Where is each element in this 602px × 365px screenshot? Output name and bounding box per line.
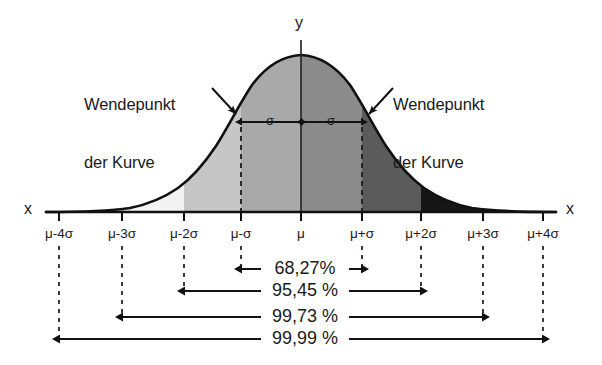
normal-distribution-figure: Wendepunkt der Kurve Wendepunkt der Kurv… (0, 0, 602, 365)
interval-label-99-99: 99,99 % (261, 328, 349, 349)
inflection-label-left-line1: Wendepunkt (84, 95, 175, 114)
inflection-label-left-line2: der Kurve (84, 153, 175, 172)
interval-label-68: 68,27% (261, 258, 349, 279)
inflection-pointer-right-icon (369, 88, 393, 114)
inflection-label-right-line1: Wendepunkt (393, 95, 484, 114)
sigma-label-left: σ (266, 113, 274, 128)
x-tick-label-plus4sigma: μ+4σ (503, 226, 583, 242)
x-axis-ticks (59, 212, 543, 221)
interval-label-99-73: 99,73 % (261, 306, 349, 327)
x-axis-label-left: x (24, 200, 32, 219)
interval-label-95: 95,45 % (261, 280, 349, 301)
y-axis-label: y (295, 14, 303, 33)
x-axis-label-right: x (566, 200, 574, 219)
inflection-pointer-left-icon (212, 88, 236, 114)
band-minus2-to-minus1 (184, 40, 241, 215)
inflection-label-right: Wendepunkt der Kurve (393, 56, 484, 212)
inflection-label-right-line2: der Kurve (393, 153, 484, 172)
sigma-label-right: σ (327, 113, 335, 128)
inflection-label-left: Wendepunkt der Kurve (84, 56, 175, 212)
